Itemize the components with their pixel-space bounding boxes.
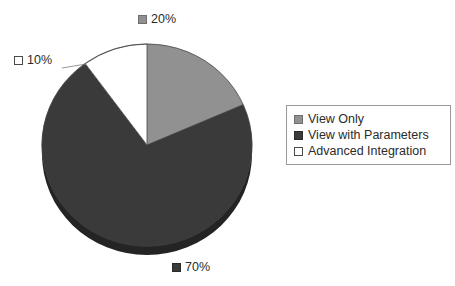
legend-item-label: View Only xyxy=(308,113,364,126)
dark-gray-swatch-icon xyxy=(294,131,303,140)
data-label-slice-bottom-text: 70% xyxy=(185,261,210,274)
light-gray-swatch-icon xyxy=(294,115,303,124)
white-swatch-icon xyxy=(294,147,303,156)
pie-chart-figure: 20% 10% 70% View Only View with Paramete… xyxy=(0,0,455,286)
data-label-slice-top-text: 20% xyxy=(151,13,176,26)
data-label-slice-left: 10% xyxy=(14,54,52,67)
white-swatch-icon xyxy=(14,56,23,65)
legend-item-label: View with Parameters xyxy=(308,129,429,142)
pie-chart-plot-area: 20% 10% 70% xyxy=(0,0,275,286)
legend-item-view-only: View Only xyxy=(294,111,443,127)
dark-gray-swatch-icon xyxy=(172,263,181,272)
data-label-slice-top: 20% xyxy=(138,13,176,26)
legend-item-label: Advanced Integration xyxy=(308,145,426,158)
chart-legend: View Only View with Parameters Advanced … xyxy=(286,105,451,165)
data-label-slice-left-text: 10% xyxy=(27,54,52,67)
pie-chart-graphic xyxy=(0,0,275,286)
legend-item-advanced-integration: Advanced Integration xyxy=(294,143,443,159)
data-label-slice-bottom: 70% xyxy=(172,261,210,274)
light-gray-swatch-icon xyxy=(138,15,147,24)
legend-item-view-with-parameters: View with Parameters xyxy=(294,127,443,143)
